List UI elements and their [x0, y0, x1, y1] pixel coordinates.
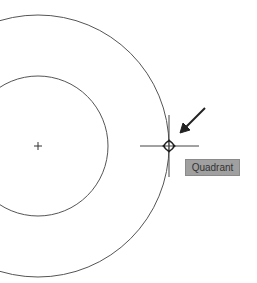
drawing-canvas[interactable]	[0, 0, 257, 283]
center-mark-icon	[34, 142, 42, 150]
arrow-pointer-icon	[180, 108, 205, 133]
inner-circle[interactable]	[0, 76, 108, 216]
snap-tooltip-label: Quadrant	[192, 162, 234, 173]
snap-tooltip: Quadrant	[185, 159, 240, 176]
